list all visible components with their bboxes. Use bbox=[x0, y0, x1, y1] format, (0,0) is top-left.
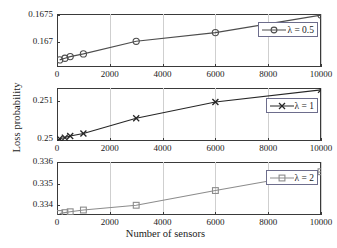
x-axis-tick-label: 2000 bbox=[90, 217, 130, 227]
series-x bbox=[57, 88, 321, 141]
panel-lambda-2: λ = 2 bbox=[57, 162, 321, 215]
x-axis-tick-label: 0 bbox=[37, 143, 77, 153]
y-axis-tick-label: 0.167 bbox=[11, 36, 53, 46]
legend-panel-lambda-1[interactable]: λ = 1 bbox=[266, 98, 318, 113]
x-axis-tick-label: 8000 bbox=[248, 143, 288, 153]
x-axis-label: Number of sensors bbox=[0, 228, 331, 239]
legend-label: λ = 2 bbox=[294, 173, 314, 183]
legend-label: λ = 0.5 bbox=[286, 25, 314, 35]
x-axis-tick-label: 4000 bbox=[143, 69, 183, 79]
y-axis-tick-label: 0.335 bbox=[11, 178, 53, 188]
legend-marker-circle-icon bbox=[262, 24, 286, 36]
x-axis-tick-label: 8000 bbox=[248, 69, 288, 79]
gridline-vertical bbox=[321, 14, 322, 67]
x-axis-tick-label: 0 bbox=[37, 69, 77, 79]
x-axis-tick-label: 0 bbox=[37, 217, 77, 227]
x-axis-tick-label: 2000 bbox=[90, 143, 130, 153]
panel-lambda-05: λ = 0.5 bbox=[57, 14, 321, 67]
legend-panel-lambda-05[interactable]: λ = 0.5 bbox=[258, 22, 318, 37]
x-axis-tick-label: 4000 bbox=[143, 143, 183, 153]
y-axis-tick-label: 0.334 bbox=[11, 199, 53, 209]
y-axis-tick-label: 0.25 bbox=[11, 133, 53, 143]
x-axis-tick-label: 8000 bbox=[248, 217, 288, 227]
x-axis-tick-label: 6000 bbox=[195, 143, 235, 153]
x-axis-tick-label: 6000 bbox=[195, 217, 235, 227]
y-axis-tick-label: 0.251 bbox=[11, 95, 53, 105]
legend-panel-lambda-2[interactable]: λ = 2 bbox=[266, 170, 318, 185]
legend-marker-square-icon bbox=[270, 172, 294, 184]
y-axis-tick-label: 0.1675 bbox=[11, 9, 53, 19]
panel-lambda-1: λ = 1 bbox=[57, 88, 321, 141]
x-axis-tick-label: 6000 bbox=[195, 69, 235, 79]
legend-label: λ = 1 bbox=[294, 101, 314, 111]
gridline-vertical bbox=[321, 88, 322, 141]
legend-marker-x-icon bbox=[270, 100, 294, 112]
x-axis-tick bbox=[321, 138, 322, 141]
x-axis-tick-label: 10000 bbox=[301, 217, 337, 227]
x-axis-tick-label: 10000 bbox=[301, 69, 337, 79]
x-axis-tick-label: 2000 bbox=[90, 69, 130, 79]
y-axis-tick-label: 0.336 bbox=[11, 156, 53, 166]
x-axis-tick-label: 10000 bbox=[301, 143, 337, 153]
x-axis-tick-label: 4000 bbox=[143, 217, 183, 227]
gridline-vertical bbox=[321, 162, 322, 215]
x-axis-tick bbox=[321, 212, 322, 215]
x-axis-tick bbox=[321, 64, 322, 67]
